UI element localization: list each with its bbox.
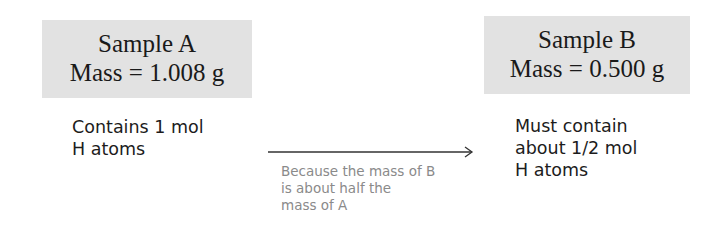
sample-b-box: Sample B Mass = 0.500 g [484,16,690,94]
sample-b-title: Sample B [484,25,690,54]
sample-b-mass: Mass = 0.500 g [484,54,690,83]
sample-a-description: Contains 1 mol H atoms [72,116,204,160]
right-arrow-icon [268,144,474,160]
arrow-note-line: mass of A [281,197,435,214]
sample-b-description-line: Must contain [515,115,637,137]
sample-a-description-line: H atoms [72,138,204,160]
sample-b-description-line: about 1/2 mol [515,137,637,159]
arrow-note-line: is about half the [281,180,435,197]
sample-a-title: Sample A [42,29,252,58]
arrow-note-line: Because the mass of B [281,163,435,180]
arrow-note: Because the mass of B is about half the … [281,163,435,214]
sample-b-description: Must contain about 1/2 mol H atoms [515,115,637,181]
sample-a-description-line: Contains 1 mol [72,116,204,138]
sample-a-mass: Mass = 1.008 g [42,58,252,87]
sample-b-description-line: H atoms [515,159,637,181]
sample-a-box: Sample A Mass = 1.008 g [42,20,252,98]
